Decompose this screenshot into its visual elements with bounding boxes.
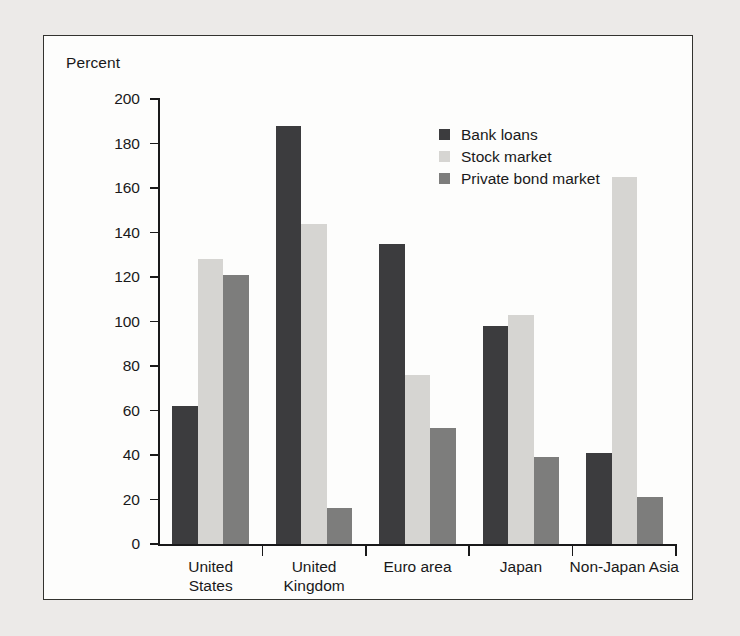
bar — [379, 244, 405, 544]
bar — [508, 315, 534, 544]
y-axis-tick-label: 200 — [80, 90, 140, 108]
bar-group — [172, 99, 249, 544]
bar — [637, 497, 663, 544]
x-axis-tick — [675, 545, 677, 556]
bar — [430, 428, 456, 544]
chart-panel: Percent 020406080100120140160180200 Unit… — [43, 35, 693, 600]
y-axis-tick-label: 160 — [80, 179, 140, 197]
legend-item: Private bond market — [439, 168, 600, 189]
bar-group — [276, 99, 353, 544]
legend-label: Stock market — [461, 148, 551, 166]
bar — [276, 126, 302, 544]
legend-label: Bank loans — [461, 126, 538, 144]
legend-item: Stock market — [439, 146, 600, 167]
chart-page: Percent 020406080100120140160180200 Unit… — [0, 0, 740, 636]
y-axis-tick — [150, 143, 159, 145]
y-axis-tick-label: 60 — [80, 402, 140, 420]
y-axis-tick — [150, 98, 159, 100]
y-axis-tick-label: 80 — [80, 357, 140, 375]
y-axis-tick-label: 140 — [80, 224, 140, 242]
legend-swatch-icon — [439, 129, 450, 140]
y-axis-tick-label: 0 — [80, 535, 140, 553]
y-axis-tick-label: 100 — [80, 313, 140, 331]
y-axis-tick-label: 120 — [80, 268, 140, 286]
y-axis-tick — [150, 321, 159, 323]
x-axis-line — [158, 544, 677, 546]
x-axis-tick — [468, 545, 470, 556]
y-axis-tick — [150, 454, 159, 456]
legend-swatch-icon — [439, 151, 450, 162]
x-axis-tick — [365, 545, 367, 556]
bar — [327, 508, 353, 544]
bar — [301, 224, 327, 544]
y-axis-tick-label: 180 — [80, 135, 140, 153]
x-axis-tick — [572, 545, 574, 556]
x-axis-tick — [262, 545, 264, 556]
bar — [612, 177, 638, 544]
legend-swatch-icon — [439, 173, 450, 184]
y-axis-tick — [150, 276, 159, 278]
bar — [172, 406, 198, 544]
y-axis-tick-label: 40 — [80, 446, 140, 464]
y-axis-tick — [150, 543, 159, 545]
bar — [223, 275, 249, 544]
bar — [586, 453, 612, 544]
y-axis-tick — [150, 499, 159, 501]
legend-item: Bank loans — [439, 124, 600, 145]
bar — [483, 326, 509, 544]
y-axis-tick — [150, 232, 159, 234]
y-axis-label: Percent — [66, 54, 120, 72]
x-axis-category-label: Non-Japan Asia — [553, 557, 696, 576]
y-axis-tick — [150, 410, 159, 412]
y-axis-tick — [150, 365, 159, 367]
bar — [198, 259, 224, 544]
chart-legend: Bank loansStock marketPrivate bond marke… — [439, 124, 600, 190]
y-axis-tick — [150, 187, 159, 189]
bar — [534, 457, 560, 544]
y-axis-tick-label: 20 — [80, 491, 140, 509]
legend-label: Private bond market — [461, 170, 600, 188]
bar — [405, 375, 431, 544]
